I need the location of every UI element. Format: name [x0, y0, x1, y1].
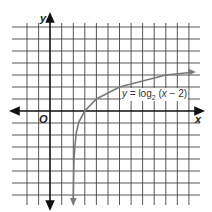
origin-label: O [39, 113, 48, 125]
eq-close: − 2) [167, 88, 187, 99]
curve-arrow-bottom [70, 198, 77, 206]
curve-arrow-right [188, 69, 196, 76]
equation-label: y = log2 (x − 2) [121, 88, 188, 101]
y-axis-label: y [40, 12, 46, 24]
eq-log: = log [127, 88, 152, 99]
graph [0, 0, 212, 212]
x-axis-label: x [195, 113, 201, 125]
